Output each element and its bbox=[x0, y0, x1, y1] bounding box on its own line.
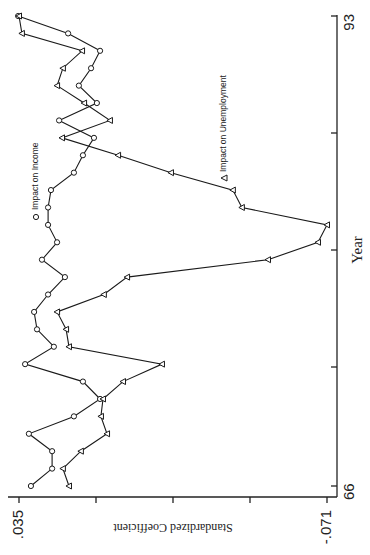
triangle-marker-icon bbox=[54, 83, 60, 89]
circle-marker-icon bbox=[66, 31, 71, 36]
year-tick-66: 66 bbox=[340, 483, 357, 500]
circle-marker-icon bbox=[45, 205, 50, 210]
circle-marker-icon bbox=[51, 344, 56, 349]
circle-marker-icon bbox=[71, 414, 76, 419]
circle-marker-icon bbox=[50, 466, 55, 471]
circle-marker-icon bbox=[45, 292, 50, 297]
circle-marker-icon bbox=[56, 118, 61, 123]
circle-marker-icon bbox=[71, 170, 76, 175]
coef-axis-title: Standardized Coefficient bbox=[113, 521, 233, 535]
year-axis: 93 66 Year bbox=[331, 14, 365, 500]
triangle-marker-icon bbox=[221, 175, 227, 181]
circle-marker-icon bbox=[32, 309, 37, 314]
circle-marker-icon bbox=[62, 275, 67, 280]
circle-marker-icon bbox=[28, 483, 33, 488]
triangle-marker-icon bbox=[63, 326, 69, 332]
circle-marker-icon bbox=[23, 362, 28, 367]
circle-marker-icon bbox=[26, 431, 31, 436]
triangle-marker-icon bbox=[239, 204, 245, 210]
coef-tick-max: .035 bbox=[9, 510, 26, 539]
legend-income-label: Impact on Income bbox=[30, 142, 40, 210]
triangle-marker-icon bbox=[60, 466, 66, 472]
triangle-marker-icon bbox=[230, 187, 236, 193]
rotated-line-chart: 93 66 Year .035 -.071 Standardized Coeff… bbox=[0, 0, 370, 555]
year-tick-93: 93 bbox=[340, 14, 357, 31]
series-line bbox=[19, 16, 327, 486]
circle-marker-icon bbox=[80, 153, 85, 158]
legend-unemployment: Impact on Unemployment bbox=[218, 75, 228, 181]
triangle-marker-icon bbox=[324, 222, 330, 228]
triangle-marker-icon bbox=[168, 170, 174, 176]
triangle-marker-icon bbox=[59, 135, 65, 141]
legend-unemployment-label: Impact on Unemployment bbox=[218, 75, 228, 172]
circle-marker-icon bbox=[45, 222, 50, 227]
circle-marker-icon bbox=[39, 257, 44, 262]
coef-tick-min: -.071 bbox=[317, 510, 334, 544]
coefficient-axis: .035 -.071 Standardized Coefficient bbox=[8, 497, 337, 544]
series-impact-on-unemployment bbox=[16, 13, 330, 489]
circle-marker-icon bbox=[33, 214, 38, 219]
triangle-marker-icon bbox=[54, 309, 60, 315]
circle-marker-icon bbox=[88, 66, 93, 71]
triangle-marker-icon bbox=[101, 292, 107, 298]
legend-income: Impact on Income bbox=[30, 142, 40, 219]
triangle-marker-icon bbox=[265, 257, 271, 263]
circle-marker-icon bbox=[97, 48, 102, 53]
circle-marker-icon bbox=[48, 187, 53, 192]
circle-marker-icon bbox=[34, 327, 39, 332]
circle-marker-icon bbox=[50, 449, 55, 454]
circle-marker-icon bbox=[76, 83, 81, 88]
triangle-marker-icon bbox=[159, 361, 165, 367]
year-axis-title: Year bbox=[349, 236, 365, 264]
circle-marker-icon bbox=[94, 100, 99, 105]
circle-marker-icon bbox=[91, 135, 96, 140]
triangle-marker-icon bbox=[115, 152, 121, 158]
triangle-marker-icon bbox=[315, 239, 321, 245]
circle-marker-icon bbox=[54, 240, 59, 245]
circle-marker-icon bbox=[80, 379, 85, 384]
